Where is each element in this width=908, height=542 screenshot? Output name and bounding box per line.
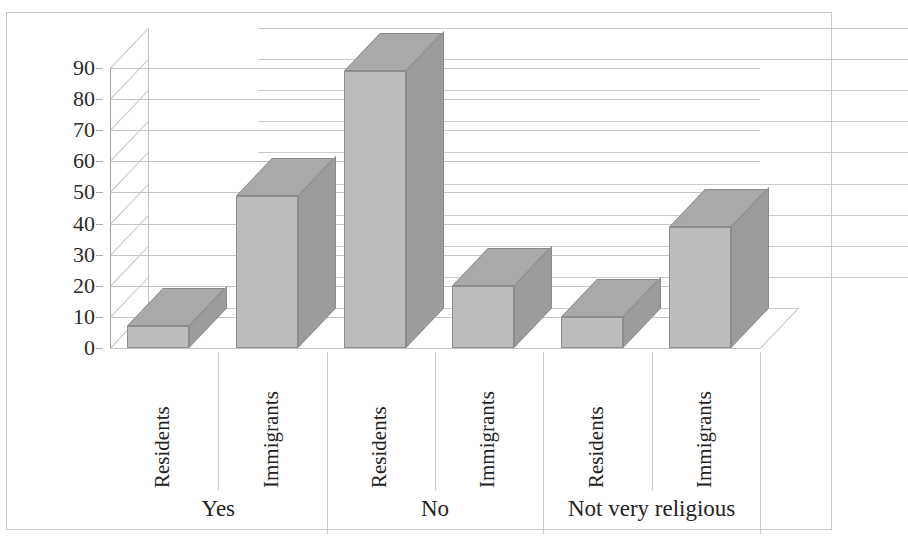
y-tick-90 [96,68,103,69]
category-label-3: Immigrants [477,391,498,488]
category-separator-end [760,352,761,490]
group-label-no: No [327,496,544,522]
gridline-riser-30 [110,215,149,256]
bar-not-very-religious-immigrants[interactable] [669,227,731,348]
y-tick-80 [96,99,103,100]
category-separator-3 [435,352,436,490]
bar-front-face [127,326,189,348]
bar-front-face [669,227,731,348]
category-label-0: Residents [152,406,173,488]
y-tick-0 [96,348,103,349]
category-separator-5 [652,352,653,490]
group-label-not-very-religious: Not very religious [543,496,760,522]
category-label-band: ResidentsImmigrantsResidentsImmigrantsRe… [110,352,760,490]
bar-front-face [452,286,514,348]
category-label-2: Residents [369,406,390,488]
bar-no-residents[interactable] [344,71,406,348]
category-label-1: Immigrants [261,391,282,488]
category-label-4: Residents [586,406,607,488]
category-separator-4 [543,352,544,490]
y-tick-30 [96,255,103,256]
y-tick-label-40: 40 [73,213,95,235]
bar-side-face [406,31,444,348]
gridline-0 [110,348,760,349]
bar-yes-residents[interactable] [127,326,189,348]
y-tick-60 [96,161,103,162]
group-separator-end [760,490,761,534]
group-separator-2 [543,490,544,534]
bar-front-face [561,317,623,348]
y-tick-label-90: 90 [73,57,95,79]
y-tick-label-0: 0 [84,337,95,359]
y-tick-40 [96,224,103,225]
y-tick-label-80: 80 [73,88,95,110]
bar-no-immigrants[interactable] [452,286,514,348]
gridline-riser-40 [110,184,149,225]
y-tick-70 [96,130,103,131]
y-tick-label-30: 30 [73,244,95,266]
y-tick-50 [96,192,103,193]
group-separator-1 [327,490,328,534]
y-axis-labels: 9080706050403020100 [0,68,103,348]
bar-yes-immigrants[interactable] [236,196,298,348]
gridline-back-90 [258,28,908,29]
category-separator-1 [218,352,219,490]
group-label-band: YesNoNot very religious [110,490,760,534]
y-tick-20 [96,286,103,287]
plot-area [110,68,760,348]
category-separator-2 [327,352,328,490]
bar-front-face [344,71,406,348]
y-tick-label-70: 70 [73,119,95,141]
group-label-yes: Yes [110,496,327,522]
y-tick-label-50: 50 [73,181,95,203]
y-tick-10 [96,317,103,318]
gridline-riser-50 [110,152,149,193]
bar-front-face [236,196,298,348]
y-tick-label-60: 60 [73,150,95,172]
y-tick-label-20: 20 [73,275,95,297]
bar-not-very-religious-residents[interactable] [561,317,623,348]
y-tick-label-10: 10 [73,306,95,328]
category-label-5: Immigrants [694,391,715,488]
